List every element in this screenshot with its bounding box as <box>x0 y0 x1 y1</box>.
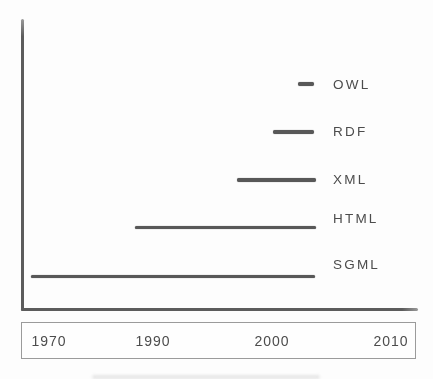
x-tick-2010: 2010 <box>373 332 408 350</box>
x-tick-1970: 1970 <box>31 332 66 350</box>
timeline-bar-owl <box>298 82 313 86</box>
x-tick-1990: 1990 <box>135 332 170 350</box>
scan-artifact <box>92 375 320 379</box>
timeline-bar-html <box>135 226 316 230</box>
bar-label-sgml: SGML <box>333 256 380 274</box>
bar-label-owl: OWL <box>333 76 370 94</box>
x-axis <box>21 308 418 311</box>
timeline-bar-sgml <box>31 275 315 279</box>
language-timeline-chart: OWLRDFXMLHTMLSGML 1970199020002010 <box>0 0 433 379</box>
bar-label-xml: XML <box>333 171 367 189</box>
timeline-bar-rdf <box>273 130 313 134</box>
bar-label-rdf: RDF <box>333 123 367 141</box>
x-tick-2000: 2000 <box>254 332 289 350</box>
timeline-bar-xml <box>237 178 316 182</box>
y-axis <box>21 19 24 311</box>
x-axis-tick-box <box>21 322 416 359</box>
bar-label-html: HTML <box>333 210 379 228</box>
